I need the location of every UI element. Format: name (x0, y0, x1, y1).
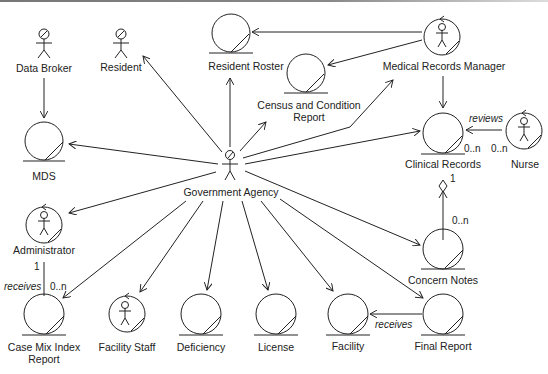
node-deficiency[interactable]: Deficiency (177, 294, 226, 353)
mult-admin: 1 (34, 261, 40, 272)
node-medical-records-manager[interactable]: Medical Records Manager (383, 16, 506, 72)
node-label: Data Broker (16, 62, 73, 74)
mult-casemix: 0..n (50, 281, 67, 292)
mult-clinical-nurse: 0..n (464, 143, 481, 154)
node-label: Resident Roster (208, 60, 284, 72)
control-actor-icon (109, 293, 145, 332)
node-label: Facility Staff (99, 341, 156, 353)
node-mds[interactable]: MDS (23, 122, 65, 182)
node-nurse[interactable]: Nurse (506, 110, 542, 170)
entity-icon (179, 294, 223, 335)
node-license[interactable]: License (254, 294, 298, 353)
node-label: Clinical Records (405, 158, 481, 170)
edge-gov-census (240, 122, 266, 151)
edge-label-receives-admin: receives (4, 281, 41, 292)
control-actor-icon (26, 204, 62, 243)
node-administrator[interactable]: Administrator (13, 204, 75, 256)
node-label-line-1: Census and Condition (257, 99, 360, 111)
node-label: Final Report (414, 340, 471, 352)
entity-icon (254, 294, 298, 335)
node-final-report[interactable]: Final Report (414, 294, 471, 352)
node-label: Nurse (511, 158, 539, 170)
edge-label-receives-facility: receives (375, 319, 412, 330)
entity-icon (326, 294, 370, 335)
edge-gov-staff (140, 201, 203, 292)
node-label-line-2: Report (28, 353, 60, 365)
entity-icon (421, 294, 465, 335)
node-label: Deficiency (177, 341, 226, 353)
entity-icon (284, 54, 328, 93)
control-actor-icon (506, 110, 542, 149)
node-label: Concern Notes (408, 274, 478, 286)
node-label: Government Agency (183, 186, 279, 198)
node-data-broker[interactable]: Data Broker (16, 29, 73, 74)
node-label: Administrator (13, 244, 75, 256)
edge-gov-concern (245, 171, 420, 245)
node-case-mix-index-report[interactable]: Case Mix Index Report (8, 294, 81, 365)
node-resident[interactable]: Resident (100, 29, 142, 73)
entity-icon (22, 294, 66, 335)
entity-icon (209, 14, 253, 53)
node-facility-staff[interactable]: Facility Staff (99, 293, 156, 353)
edge-gov-clinical (245, 131, 420, 164)
node-facility[interactable]: Facility (326, 294, 370, 352)
entity-icon (421, 113, 465, 154)
actor-icon (36, 29, 52, 58)
mult-nurse: 0..n (491, 143, 508, 154)
edge-gov-mds (69, 144, 218, 164)
actor-icon (222, 151, 238, 181)
node-label: Medical Records Manager (383, 60, 506, 72)
node-label: License (258, 341, 294, 353)
edge-label-reviews: reviews (469, 113, 503, 124)
node-resident-roster[interactable]: Resident Roster (208, 14, 284, 72)
edge-gov-casemix (63, 201, 186, 298)
robustness-diagram: reviews 0..n 0..n 1 0..n 1 0..n receives… (0, 0, 548, 374)
mult-concern: 0..n (452, 215, 469, 226)
control-actor-icon (424, 16, 460, 55)
entity-icon (23, 122, 65, 161)
node-label-line-2: Report (293, 111, 325, 123)
mult-clinical-agg: 1 (450, 173, 456, 184)
node-label: MDS (32, 170, 55, 182)
node-label-line-1: Case Mix Index (8, 341, 81, 353)
edge-gov-deficiency (207, 201, 223, 290)
edge-gov-facility (261, 201, 333, 291)
actor-icon (113, 29, 129, 58)
edges (44, 32, 502, 314)
edge-gov-license (242, 201, 268, 290)
node-government-agency[interactable]: Government Agency (183, 151, 279, 199)
node-label: Resident (100, 61, 142, 73)
node-label: Facility (332, 340, 365, 352)
edge-gov-finalreport (280, 199, 423, 298)
